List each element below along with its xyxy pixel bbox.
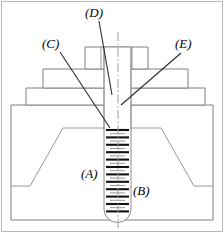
- callout-label-d: (D): [85, 5, 103, 20]
- bolted-joint-diagram: (A)(B)(C)(D)(E): [0, 0, 224, 233]
- callout-label-e: (E): [175, 36, 192, 51]
- callout-label-b: (B): [133, 183, 150, 198]
- callout-label-a: (A): [81, 166, 98, 181]
- callout-label-c: (C): [42, 36, 59, 51]
- figure-container: (A)(B)(C)(D)(E): [0, 0, 224, 233]
